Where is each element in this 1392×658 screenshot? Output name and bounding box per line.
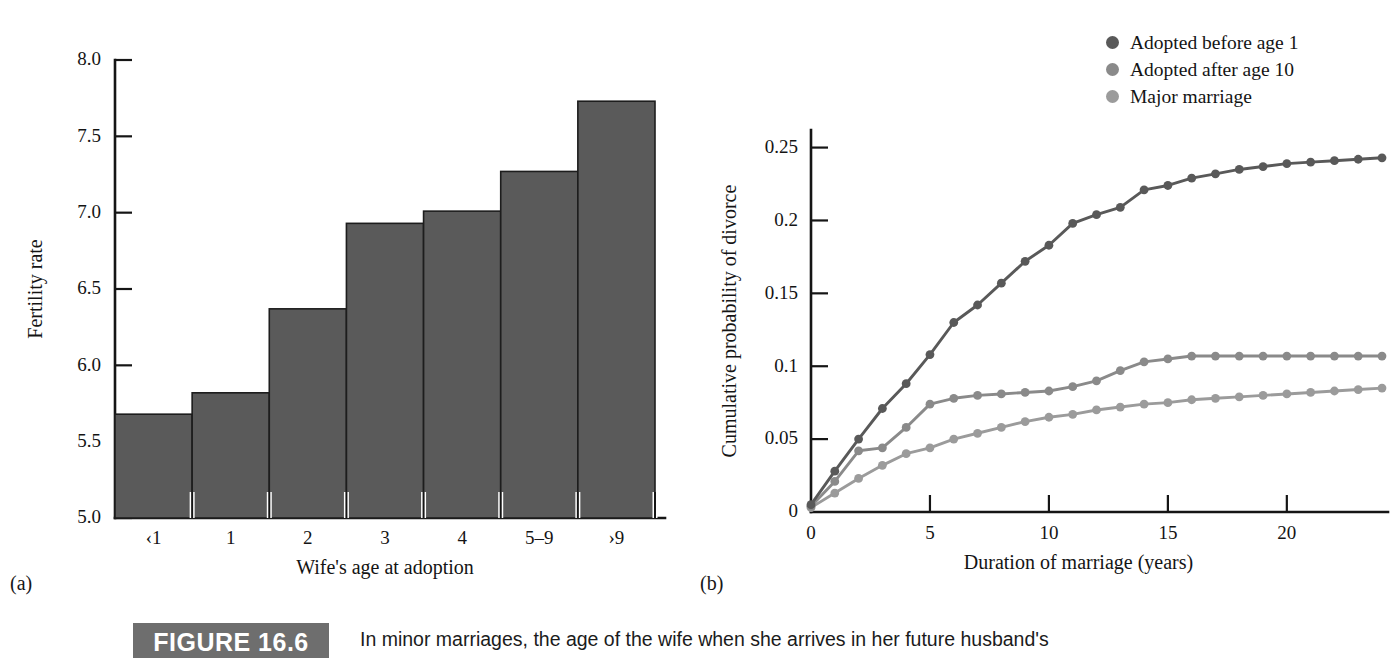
series-data-point: [1187, 352, 1196, 361]
series-data-point: [1378, 153, 1387, 162]
series-data-point: [1282, 352, 1291, 361]
x-axis-tick-label: 15: [1158, 522, 1177, 543]
series-line: [811, 158, 1382, 505]
series-data-point: [1378, 352, 1387, 361]
series-data-point: [1021, 417, 1030, 426]
series-data-point: [1045, 413, 1054, 422]
x-axis-title: Duration of marriage (years): [964, 551, 1193, 574]
series-data-point: [1306, 352, 1315, 361]
series-data-point: [1163, 398, 1172, 407]
y-axis-tick-label: 0.25: [765, 136, 798, 157]
y-axis-title: Fertility rate: [24, 239, 47, 339]
series-data-point: [902, 379, 911, 388]
series-data-point: [973, 391, 982, 400]
legend-item-label: Adopted before age 1: [1130, 32, 1298, 54]
series-data-point: [1306, 388, 1315, 397]
bar-chart-svg: 5.05.56.06.57.07.58.0‹112345–9›9Wife's a…: [0, 0, 700, 600]
series-data-point: [902, 449, 911, 458]
y-axis-tick-label: 0.15: [765, 282, 798, 303]
series-data-point: [1282, 159, 1291, 168]
series-data-point: [1140, 357, 1149, 366]
series-data-point: [1163, 181, 1172, 190]
series-data-point: [1330, 156, 1339, 165]
figure-caption-text: In minor marriages, the age of the wife …: [360, 626, 1049, 652]
series-data-point: [1354, 385, 1363, 394]
series-data-point: [830, 467, 839, 476]
series-data-point: [1330, 352, 1339, 361]
x-axis-tick-label: 1: [226, 527, 236, 548]
y-axis-tick-label: 0.2: [774, 209, 798, 230]
panel-label-a: (a): [10, 572, 32, 595]
bar: [578, 101, 655, 518]
x-axis-tick-label: ›9: [609, 527, 625, 548]
series-data-point: [1045, 387, 1054, 396]
series-data-point: [926, 400, 935, 409]
figure-number-label: FIGURE 16.6: [153, 628, 309, 657]
y-axis-title: Cumulative probability of divorce: [718, 185, 741, 458]
legend-swatch-icon: [1106, 63, 1119, 76]
series-data-point: [1354, 155, 1363, 164]
series-data-point: [926, 350, 935, 359]
figure-caption: FIGURE 16.6 In minor marriages, the age …: [0, 623, 1392, 658]
series-data-point: [1140, 185, 1149, 194]
y-axis-tick-label: 6.5: [77, 277, 101, 298]
chart-legend: Adopted before age 1 Adopted after age 1…: [1106, 30, 1386, 111]
legend-swatch-icon: [1106, 90, 1119, 103]
legend-item: Major marriage: [1106, 84, 1386, 109]
series-data-point: [902, 423, 911, 432]
series-data-point: [878, 404, 887, 413]
bar: [424, 211, 501, 518]
figure-16-6: 5.05.56.06.57.07.58.0‹112345–9›9Wife's a…: [0, 0, 1392, 658]
x-axis-tick-label: 3: [380, 527, 390, 548]
y-axis-tick-label: 5.0: [77, 506, 101, 527]
bar: [269, 309, 346, 518]
bar: [115, 414, 192, 518]
series-data-point: [1021, 388, 1030, 397]
x-axis-title: Wife's age at adoption: [296, 556, 474, 579]
legend-swatch-icon: [1106, 36, 1119, 49]
figure-number-badge: FIGURE 16.6: [133, 623, 329, 658]
series-data-point: [1116, 403, 1125, 412]
series-data-point: [1378, 384, 1387, 393]
y-axis-tick-label: 7.0: [77, 201, 101, 222]
series-data-point: [1282, 390, 1291, 399]
series-data-point: [1068, 410, 1077, 419]
x-axis-tick-label: 4: [457, 527, 467, 548]
series-data-point: [1163, 355, 1172, 364]
series-data-point: [830, 489, 839, 498]
x-axis-tick-label: 0: [806, 522, 816, 543]
legend-item-label: Adopted after age 10: [1130, 59, 1294, 81]
series-data-point: [997, 390, 1006, 399]
series-data-point: [1021, 257, 1030, 266]
x-axis-tick-label: 5: [925, 522, 935, 543]
y-axis-tick-label: 0.1: [774, 355, 798, 376]
series-data-point: [997, 423, 1006, 432]
series-data-point: [1259, 162, 1268, 171]
series-data-point: [854, 446, 863, 455]
series-data-point: [973, 429, 982, 438]
series-data-point: [1116, 203, 1125, 212]
series-data-point: [973, 301, 982, 310]
x-axis-tick-label: 2: [303, 527, 313, 548]
series-data-point: [830, 477, 839, 486]
x-axis-tick-label: 5–9: [525, 527, 554, 548]
x-axis-tick-label: 20: [1277, 522, 1296, 543]
y-axis-tick-label: 0.05: [765, 427, 798, 448]
series-data-point: [1045, 241, 1054, 250]
series-data-point: [878, 443, 887, 452]
series-data-point: [1259, 352, 1268, 361]
series-data-point: [1211, 352, 1220, 361]
series-data-point: [1330, 387, 1339, 396]
series-data-point: [878, 461, 887, 470]
series-data-point: [1092, 210, 1101, 219]
series-data-point: [1092, 406, 1101, 415]
x-axis-tick-label: ‹1: [146, 527, 162, 548]
legend-item-label: Major marriage: [1130, 86, 1252, 108]
series-data-point: [807, 500, 816, 509]
series-data-point: [1068, 219, 1077, 228]
series-data-point: [1092, 376, 1101, 385]
series-data-point: [949, 394, 958, 403]
y-axis-tick-label: 8.0: [77, 48, 101, 69]
panel-label-b: (b): [700, 572, 723, 595]
series-data-point: [1259, 391, 1268, 400]
